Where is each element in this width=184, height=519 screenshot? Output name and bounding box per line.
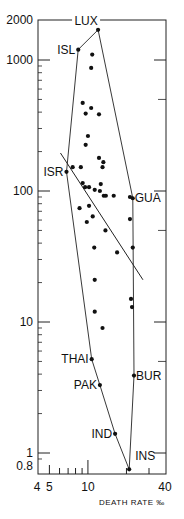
data-point xyxy=(103,228,107,232)
scatter-chart: 200010001001010.8 451040 LUXISLISRGUATHA… xyxy=(0,0,184,519)
data-point xyxy=(131,245,135,249)
data-point xyxy=(115,250,119,254)
data-point xyxy=(93,310,97,314)
data-point xyxy=(84,143,88,147)
y-axis-ticks: 200010001001010.8 xyxy=(6,13,166,473)
point-label-pak: PAK xyxy=(74,378,97,392)
plot-frame xyxy=(38,20,166,474)
x-axis-ticks: 451040 xyxy=(34,460,172,494)
labeled-data-point xyxy=(127,467,131,471)
data-point xyxy=(77,206,81,210)
data-point xyxy=(93,188,97,192)
data-point xyxy=(100,326,104,330)
data-point xyxy=(92,245,96,249)
point-label-isr: ISR xyxy=(43,165,63,179)
x-tick-label: 10 xyxy=(81,480,95,494)
data-point xyxy=(83,185,87,189)
point-label-isl: ISL xyxy=(57,43,75,57)
data-point xyxy=(90,52,94,56)
labeled-data-point xyxy=(96,28,100,32)
data-point xyxy=(71,165,75,169)
labeled-data-point xyxy=(98,383,102,387)
data-point xyxy=(89,66,93,70)
x-tick-label: 40 xyxy=(158,480,172,494)
y-tick-label: 10 xyxy=(20,315,34,329)
y-tick-label: 2000 xyxy=(6,13,33,27)
data-point xyxy=(84,111,88,115)
data-point xyxy=(87,185,91,189)
data-point xyxy=(104,194,108,198)
labeled-data-point xyxy=(64,170,68,174)
data-point xyxy=(81,181,85,185)
y-tick-label: 100 xyxy=(13,184,33,198)
y-tick-label: 0.8 xyxy=(16,459,33,473)
point-label-thai: THAI xyxy=(61,352,88,366)
data-point xyxy=(81,101,85,105)
x-axis-title: DEATH RATE ‰ xyxy=(99,498,165,507)
point-label-bur: BUR xyxy=(136,369,162,383)
data-point xyxy=(128,217,132,221)
labeled-points: LUXISLISRGUATHAIPAKBURINDINS xyxy=(43,14,161,472)
data-point xyxy=(130,305,134,309)
point-label-lux: LUX xyxy=(74,14,97,28)
labeled-data-point xyxy=(90,357,94,361)
data-point xyxy=(93,278,97,282)
labeled-data-point xyxy=(76,48,80,52)
data-point xyxy=(129,297,133,301)
data-point xyxy=(97,156,101,160)
point-label-ins: INS xyxy=(135,449,155,463)
labeled-data-point xyxy=(113,432,117,436)
point-label-ind: IND xyxy=(91,427,112,441)
data-point xyxy=(97,112,101,116)
data-point xyxy=(86,134,90,138)
x-tick-label: 4 xyxy=(34,480,41,494)
data-point xyxy=(85,220,89,224)
data-point xyxy=(101,160,105,164)
y-tick-label: 1000 xyxy=(6,53,33,67)
data-point xyxy=(79,165,83,169)
data-point xyxy=(99,182,103,186)
x-tick-label: 5 xyxy=(46,480,53,494)
data-point xyxy=(100,165,104,169)
data-point xyxy=(112,194,116,198)
data-point xyxy=(89,106,93,110)
data-point xyxy=(87,204,91,208)
point-label-gua: GUA xyxy=(135,191,161,205)
data-point xyxy=(91,214,95,218)
data-point xyxy=(98,189,102,193)
data-points xyxy=(71,52,135,330)
